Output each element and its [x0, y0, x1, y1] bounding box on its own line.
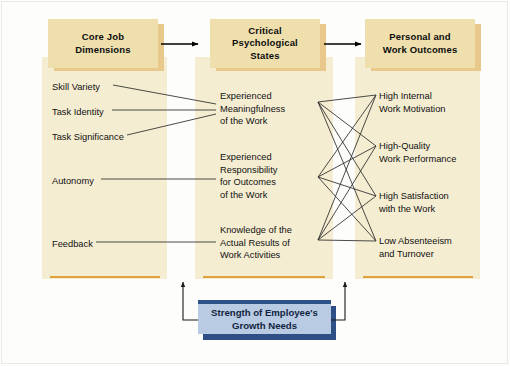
item-knowledge-of-results[interactable]: Knowledge of the Actual Results of Work …	[220, 224, 292, 262]
item-line: Work Performance	[379, 153, 456, 166]
item-line: and Turnover	[379, 248, 452, 261]
item-low-absenteeism-and-turnover[interactable]: Low Absenteeism and Turnover	[379, 235, 452, 260]
item-line: Feedback	[52, 238, 93, 251]
moderator-strength-of-growth-needs[interactable]: Strength of Employee's Growth Needs	[198, 300, 331, 334]
item-line: Actual Results of	[220, 237, 292, 250]
item-task-identity[interactable]: Task Identity	[52, 106, 104, 119]
item-line: High Internal	[379, 90, 445, 103]
tab-label-line2: Dimensions	[75, 44, 130, 57]
item-line: for Outcomes	[220, 176, 277, 189]
item-high-satisfaction-with-work[interactable]: High Satisfaction with the Work	[379, 190, 449, 215]
tab-label-line3: States	[232, 50, 298, 63]
panel-rule-right	[363, 276, 473, 278]
diagram-canvas: Core Job Dimensions Critical Psychologic…	[0, 0, 510, 366]
item-line: Skill Variety	[52, 81, 100, 94]
item-line: High-Quality	[379, 140, 456, 153]
tab-label-line1: Core Job	[75, 31, 130, 44]
item-autonomy[interactable]: Autonomy	[52, 175, 94, 188]
item-line: of the Work	[220, 189, 277, 202]
item-experienced-meaningfulness[interactable]: Experienced Meaningfulness of the Work	[220, 90, 285, 128]
moderator-label-line1: Strength of Employee's	[211, 306, 318, 319]
item-line: Experienced	[220, 90, 285, 103]
item-experienced-responsibility[interactable]: Experienced Responsibility for Outcomes …	[220, 151, 277, 201]
item-line: of the Work	[220, 115, 285, 128]
panel-rule-left	[50, 276, 160, 278]
tab-label-line2: Work Outcomes	[383, 44, 458, 57]
tab-core-job-dimensions[interactable]: Core Job Dimensions	[48, 19, 158, 68]
tab-label-line1: Personal and	[383, 31, 458, 44]
tab-personal-and-work-outcomes[interactable]: Personal and Work Outcomes	[365, 19, 475, 68]
tab-label-line2: Psychological	[232, 37, 298, 50]
item-task-significance[interactable]: Task Significance	[52, 131, 124, 144]
item-skill-variety[interactable]: Skill Variety	[52, 81, 100, 94]
item-high-internal-work-motivation[interactable]: High Internal Work Motivation	[379, 90, 445, 115]
item-line: Responsibility	[220, 164, 277, 177]
item-line: Autonomy	[52, 175, 94, 188]
item-high-quality-work-performance[interactable]: High-Quality Work Performance	[379, 140, 456, 165]
item-line: Experienced	[220, 151, 277, 164]
item-line: Task Significance	[52, 131, 124, 144]
item-line: Knowledge of the	[220, 224, 292, 237]
moderator-arrow-to-dimensions	[183, 282, 198, 320]
item-line: with the Work	[379, 203, 449, 216]
item-line: Task Identity	[52, 106, 104, 119]
moderator-label-line2: Growth Needs	[211, 319, 318, 332]
item-line: Work Motivation	[379, 103, 445, 116]
item-line: Low Absenteeism	[379, 235, 452, 248]
tab-critical-psychological-states[interactable]: Critical Psychological States	[210, 19, 320, 68]
item-line: High Satisfaction	[379, 190, 449, 203]
item-feedback[interactable]: Feedback	[52, 238, 93, 251]
panel-rule-middle	[203, 276, 325, 278]
tab-label-line1: Critical	[232, 25, 298, 38]
item-line: Meaningfulness	[220, 103, 285, 116]
item-line: Work Activities	[220, 249, 292, 262]
